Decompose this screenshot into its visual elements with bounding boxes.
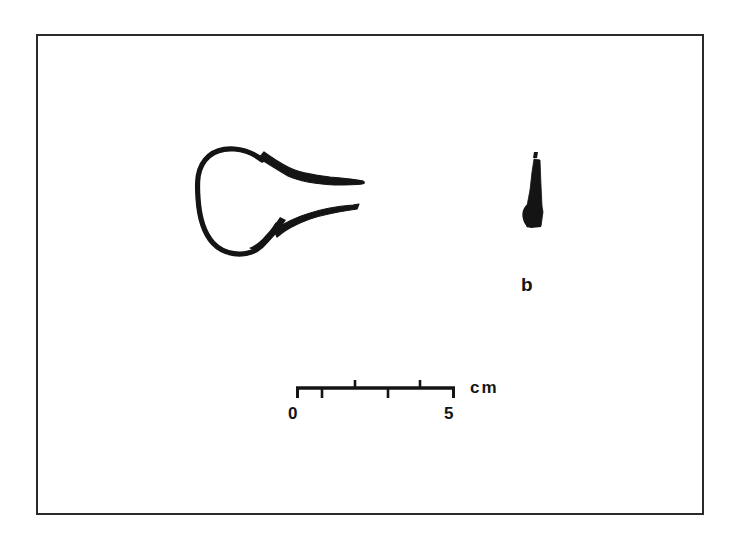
illustration-plate: b cm 0 5 bbox=[0, 0, 740, 544]
scale-bar-max-label: 5 bbox=[444, 404, 453, 424]
scale-bar-unit-label: cm bbox=[470, 378, 499, 398]
scale-bar-min-label: 0 bbox=[288, 404, 297, 424]
plate-border-frame bbox=[36, 34, 704, 515]
figure-label-b: b bbox=[521, 274, 533, 296]
